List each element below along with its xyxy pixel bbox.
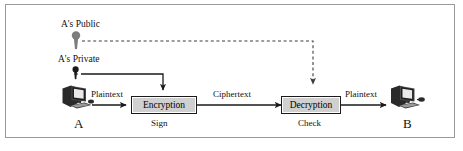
process-sublabel-sign: Sign xyxy=(151,119,168,128)
computer-icon-b xyxy=(391,86,425,109)
connector-private-key-to-encryption xyxy=(81,74,163,90)
connector-public-key-to-decryption xyxy=(82,41,313,84)
node-label-b: B xyxy=(403,117,412,130)
diagram-canvas: A's Public A's Private Plaintext Ciphert… xyxy=(0,0,463,151)
public-key-label: A's Public xyxy=(61,20,100,30)
process-label-decryption: Decryption xyxy=(290,100,333,110)
private-key-icon xyxy=(73,66,79,79)
process-sublabel-check: Check xyxy=(298,119,321,128)
process-label-encryption: Encryption xyxy=(143,100,185,110)
flow-label-ciphertext: Ciphertext xyxy=(213,90,251,99)
process-box-encryption[interactable]: Encryption xyxy=(131,96,197,114)
node-label-a: A xyxy=(74,117,83,130)
flow-label-plaintext-out: Plaintext xyxy=(345,90,377,99)
process-box-decryption[interactable]: Decryption xyxy=(281,96,341,114)
flow-label-plaintext-in: Plaintext xyxy=(91,90,123,99)
computer-icon-a xyxy=(63,86,95,109)
private-key-label: A's Private xyxy=(58,55,100,65)
public-key-icon xyxy=(72,31,80,49)
